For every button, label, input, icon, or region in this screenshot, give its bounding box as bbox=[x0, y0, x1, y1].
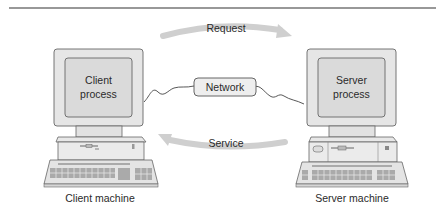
server-machine bbox=[296, 49, 408, 187]
server-process-line1: Server bbox=[318, 73, 385, 87]
request-label: Request bbox=[196, 22, 256, 34]
client-machine-caption: Client machine bbox=[50, 192, 150, 204]
client-process-line2: process bbox=[65, 87, 132, 101]
client-process-line1: Client bbox=[65, 73, 132, 87]
server-process-label: Server process bbox=[318, 73, 385, 101]
network-label: Network bbox=[194, 81, 256, 93]
service-label: Service bbox=[196, 137, 256, 149]
client-process-label: Client process bbox=[65, 73, 132, 101]
client-wire bbox=[144, 86, 194, 102]
client-machine bbox=[44, 49, 158, 187]
client-server-diagram: Request Service Network Client process S… bbox=[0, 0, 448, 219]
server-process-line2: process bbox=[318, 87, 385, 101]
server-wire bbox=[254, 86, 304, 104]
server-machine-caption: Server machine bbox=[302, 192, 402, 204]
